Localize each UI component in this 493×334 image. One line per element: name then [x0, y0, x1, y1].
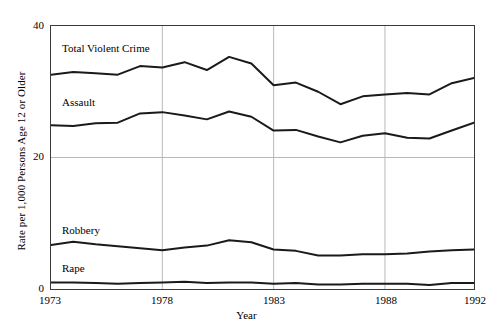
gridlines [51, 26, 474, 289]
y-tick-label-40: 40 [4, 19, 44, 31]
series-line-robbery [51, 240, 474, 255]
x-tick-label-1988: 1988 [356, 294, 416, 306]
x-tick-label-1973: 1973 [20, 294, 80, 306]
y-tick-label-20: 20 [4, 150, 44, 162]
series-line-assault [51, 111, 474, 142]
x-tick-label-1983: 1983 [244, 294, 304, 306]
series-lines [51, 57, 474, 285]
series-label-assault: Assault [62, 96, 95, 108]
series-label-robbery: Robbery [62, 224, 100, 236]
x-tick-label-1978: 1978 [132, 294, 192, 306]
series-line-total-violent-crime [51, 57, 474, 104]
y-tick-label-0: 0 [4, 282, 44, 294]
line-chart: Rate per 1,000 Persons Age 12 or Older 4… [0, 0, 493, 334]
plot-area [50, 25, 475, 290]
series-line-rape [51, 282, 474, 285]
x-tick-label-1992: 1992 [445, 294, 493, 306]
series-label-total-violent-crime: Total Violent Crime [62, 42, 150, 54]
plot-svg [51, 26, 474, 289]
x-axis-title: Year [0, 309, 493, 321]
series-label-rape: Rape [62, 262, 85, 274]
